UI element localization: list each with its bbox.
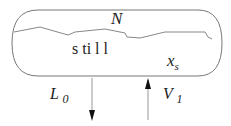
label-n: N <box>111 9 122 29</box>
inflow-arrowhead <box>145 78 151 89</box>
outflow-arrowhead <box>89 110 95 121</box>
label-still: s ti l l <box>72 40 108 58</box>
label-l0: L 0 <box>50 85 69 107</box>
label-v1: V 1 <box>163 85 182 107</box>
label-xs: xs <box>167 51 179 72</box>
